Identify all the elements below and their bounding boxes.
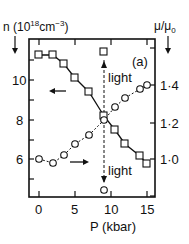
y-left-tick-6: 6: [16, 153, 23, 166]
y-right-label: μ/μ0: [154, 20, 176, 35]
y-right-tick-1.4: 1·4: [160, 79, 179, 92]
x-tick-5: 5: [71, 203, 78, 216]
arrow-right-icon: [70, 159, 89, 165]
y-right-tick-1.0: 1·0: [160, 153, 179, 166]
left-axis-arrow-icon: [12, 36, 18, 54]
y-left-tick-8: 8: [16, 114, 23, 127]
y-left-label: n (1018cm−3): [3, 20, 68, 33]
x-axis-label: P (kbar): [90, 220, 136, 233]
y-left-tick-10: 10: [12, 74, 26, 87]
arrow-left-icon: [49, 88, 66, 94]
x-tick-0: 0: [35, 203, 42, 216]
mu-fit-line: [39, 85, 147, 163]
arrow-down-icon: [101, 176, 107, 183]
light-label-down: light: [108, 164, 132, 177]
right-axis-arrow-icon: [165, 36, 171, 54]
y-right-tick-1.2: 1·2: [160, 117, 179, 130]
panel-label: (a): [132, 55, 148, 68]
light-label-up: light: [108, 71, 132, 84]
arrow-up-icon: [101, 61, 107, 68]
x-tick-15: 15: [140, 203, 154, 216]
x-tick-10: 10: [104, 203, 118, 216]
chart-figure: n (1018cm−3) μ/μ0 10 8 6 1·4 1·2 1·0 0 5…: [0, 0, 189, 244]
